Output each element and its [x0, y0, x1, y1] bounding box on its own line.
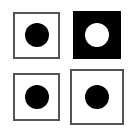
dot-top-left	[25, 23, 49, 47]
dot-bottom-left	[25, 85, 49, 109]
dot-top-right	[85, 23, 109, 47]
dot-bottom-right	[85, 85, 109, 109]
